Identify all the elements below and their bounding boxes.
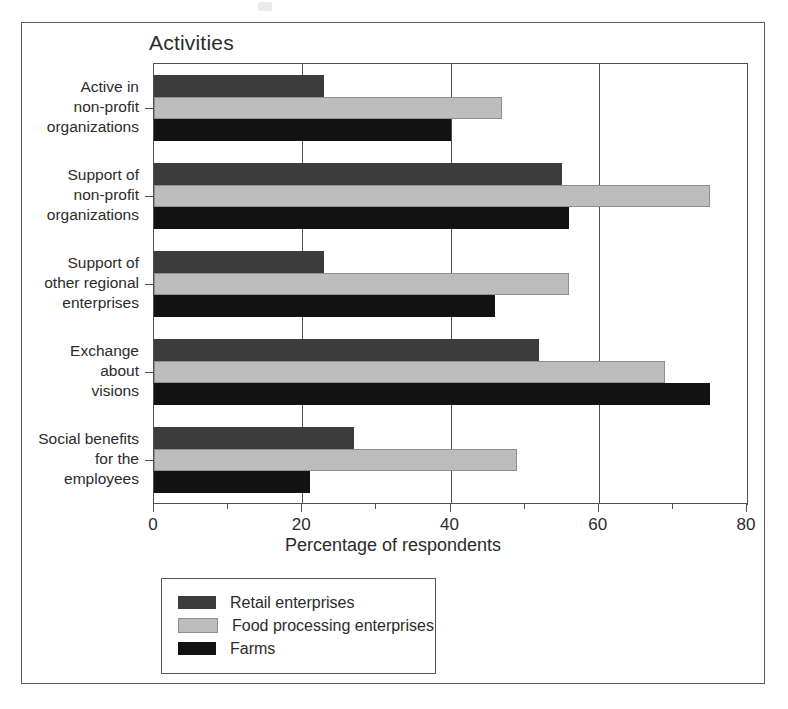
legend-label: Retail enterprises [230, 594, 355, 612]
legend-item[interactable]: Retail enterprises [178, 591, 421, 614]
x-tick-major [450, 503, 451, 512]
x-tick-major [301, 503, 302, 512]
category-label: Social benefits for the employees [19, 429, 139, 489]
bar [154, 339, 539, 361]
bar-group [154, 75, 747, 141]
bar [154, 383, 710, 405]
plot-area [153, 63, 748, 504]
bar [154, 185, 710, 207]
x-tick-minor [375, 503, 376, 509]
chart-legend: Retail enterprisesFood processing enterp… [161, 578, 436, 674]
category-label: Support of other regional enterprises [19, 253, 139, 313]
x-tick-major [598, 503, 599, 512]
bar [154, 97, 502, 119]
category-label: Support of non-profit organizations [19, 165, 139, 225]
legend-swatch-icon [178, 642, 216, 655]
y-tick [145, 372, 154, 373]
bar [154, 163, 562, 185]
figure-frame: Activities Active in non-profit organiza… [21, 22, 765, 684]
bar-group [154, 427, 747, 493]
bar [154, 119, 451, 141]
y-tick [145, 460, 154, 461]
legend-label: Food processing enterprises [232, 617, 434, 635]
bar [154, 361, 665, 383]
x-tick-label: 20 [292, 515, 311, 535]
legend-swatch-icon [178, 618, 218, 633]
x-tick-minor [524, 503, 525, 509]
legend-item[interactable]: Food processing enterprises [178, 614, 421, 637]
y-tick [145, 196, 154, 197]
y-tick [145, 108, 154, 109]
bar-group [154, 251, 747, 317]
category-label: Active in non-profit organizations [19, 77, 139, 137]
bar [154, 427, 354, 449]
legend-item[interactable]: Farms [178, 637, 421, 660]
bar [154, 471, 310, 493]
x-tick-label: 0 [148, 515, 157, 535]
x-tick-major [746, 503, 747, 512]
x-tick-minor [227, 503, 228, 509]
bar-group [154, 339, 747, 405]
x-tick-label: 40 [440, 515, 459, 535]
chart-title: Activities [149, 31, 234, 55]
bar [154, 251, 324, 273]
scan-artifact [258, 2, 272, 11]
y-tick [145, 284, 154, 285]
legend-label: Farms [230, 640, 275, 658]
x-axis-title: Percentage of respondents [22, 535, 764, 556]
x-tick-minor [672, 503, 673, 509]
legend-swatch-icon [178, 596, 216, 609]
bar [154, 207, 569, 229]
bar-group [154, 163, 747, 229]
bar [154, 449, 517, 471]
x-tick-label: 60 [588, 515, 607, 535]
bar [154, 273, 569, 295]
bar [154, 75, 324, 97]
x-tick-major [153, 503, 154, 512]
x-axis: 020406080 [153, 503, 747, 504]
category-label: Exchange about visions [19, 341, 139, 401]
x-tick-label: 80 [737, 515, 756, 535]
bar [154, 295, 495, 317]
